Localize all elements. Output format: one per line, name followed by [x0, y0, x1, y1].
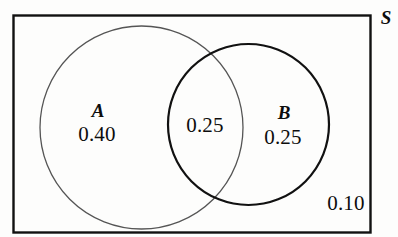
- set-b-value: 0.25: [250, 127, 316, 148]
- set-a-label: A: [84, 101, 112, 120]
- set-a-value: 0.40: [64, 124, 130, 145]
- venn-diagram-figure: A 0.40 0.25 B 0.25 0.10 S: [0, 0, 398, 237]
- set-b-label: B: [270, 103, 298, 122]
- universe-label: S: [377, 8, 395, 27]
- outside-value: 0.10: [313, 193, 379, 214]
- intersection-value: 0.25: [172, 115, 238, 136]
